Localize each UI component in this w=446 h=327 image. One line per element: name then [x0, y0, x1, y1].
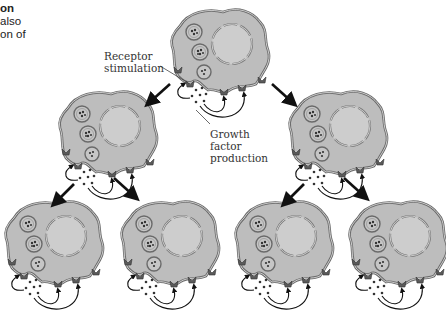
cell-bottom-2	[121, 202, 219, 309]
growth-factor-leader-line	[196, 110, 210, 124]
cell-bottom-1	[5, 202, 103, 309]
receptor-label-line-2: stimulation	[104, 62, 164, 74]
growth-label-line-1: Growth	[210, 128, 268, 140]
growth-label-line-2: factor	[210, 140, 268, 152]
cell-mid-left	[59, 92, 157, 199]
growth-label-line-3: production	[210, 152, 268, 164]
cell-top	[171, 10, 269, 117]
receptor-label-line-1: Receptor	[104, 50, 164, 62]
receptor-stimulation-label: Receptor stimulation	[104, 50, 164, 74]
growth-factor-production-label: Growth factor production	[210, 128, 268, 164]
cell-bottom-3	[235, 202, 333, 309]
cell-bottom-4	[349, 202, 446, 309]
cell-mid-right	[289, 92, 387, 199]
